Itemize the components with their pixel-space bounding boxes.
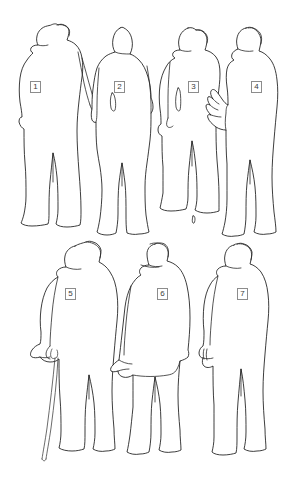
figure-outline-6 <box>111 243 190 454</box>
figure-label-1[interactable]: 1 <box>30 81 41 93</box>
figure-label-2[interactable]: 2 <box>114 81 125 93</box>
figure-label-6[interactable]: 6 <box>157 288 168 300</box>
figure-outline-2 <box>91 27 153 235</box>
figure-outline-3 <box>158 28 220 224</box>
figure-outline-1 <box>19 24 99 227</box>
figure-label-5[interactable]: 5 <box>65 288 76 300</box>
figure-outline-5 <box>31 241 118 461</box>
figure-outlines-canvas <box>0 0 292 482</box>
figure-key-diagram: 1 2 3 4 5 6 7 <box>0 0 292 482</box>
figure-label-3[interactable]: 3 <box>188 81 199 93</box>
figure-label-4[interactable]: 4 <box>251 81 262 93</box>
figure-label-7[interactable]: 7 <box>237 288 248 300</box>
figure-outline-7 <box>199 243 269 455</box>
